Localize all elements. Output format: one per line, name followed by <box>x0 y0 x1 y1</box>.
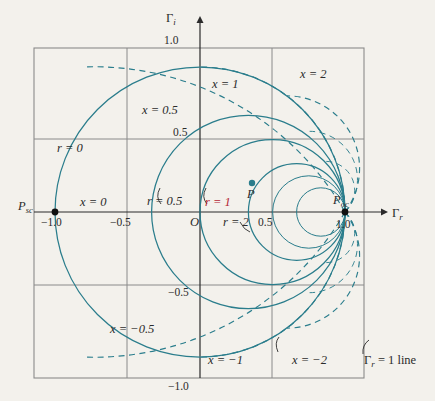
annotation-gamma-r-line: Γr = 1 line <box>364 353 417 369</box>
label-r05: r = 0.5 <box>147 194 182 208</box>
reactance-arc-x2 <box>287 96 360 212</box>
label-x2: x = 2 <box>299 67 326 81</box>
chart-frame <box>34 48 364 378</box>
point-psc-marker <box>52 209 59 216</box>
point-poc-marker <box>342 209 349 216</box>
leader-hooks <box>158 188 369 354</box>
label-x1: x = 1 <box>211 77 238 91</box>
smith-chart-canvas: Γi Γr O 1.0 0.5 −0.5 −1.0 −1.0 −0.5 0.5 … <box>0 0 435 401</box>
tick-y-05: 0.5 <box>173 126 188 138</box>
tick-x-m05: −0.5 <box>110 216 131 228</box>
point-label-p: P <box>246 187 255 201</box>
tick-y-m05: −0.5 <box>168 286 189 298</box>
tick-x-m1: −1.0 <box>41 216 62 228</box>
grid-lines <box>34 48 364 378</box>
point-label-psc: Psc <box>17 199 33 215</box>
label-x0: x = 0 <box>79 195 107 209</box>
point-label-poc: Poc <box>332 193 349 209</box>
origin-label: O <box>190 215 199 229</box>
tick-x-1: 1.0 <box>336 218 351 230</box>
label-r2: r = 2 <box>223 215 249 229</box>
point-p-marker <box>249 180 255 186</box>
label-x05: x = 0.5 <box>141 103 178 117</box>
axis-label-gamma-r: Γr <box>392 206 403 222</box>
label-xm05: x = −0.5 <box>109 322 154 336</box>
label-xm1: x = −1 <box>207 353 243 367</box>
top-faint-text <box>0 0 435 16</box>
label-xm2: x = −2 <box>291 353 327 367</box>
tick-y-m1: −1.0 <box>168 380 189 392</box>
smith-chart-figure: Γi Γr O 1.0 0.5 −0.5 −1.0 −1.0 −0.5 0.5 … <box>0 0 435 401</box>
tick-x-05: 0.5 <box>258 216 273 228</box>
label-r0: r = 0 <box>57 141 84 155</box>
tick-y-1: 1.0 <box>164 34 179 46</box>
label-r1: r = 1 <box>205 195 231 209</box>
